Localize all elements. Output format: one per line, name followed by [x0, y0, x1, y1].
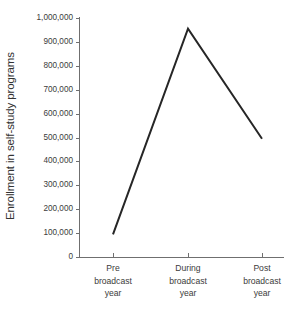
- data-series-line: [0, 0, 300, 312]
- line-chart: Enrollment in self-study programs 0100,0…: [0, 0, 300, 312]
